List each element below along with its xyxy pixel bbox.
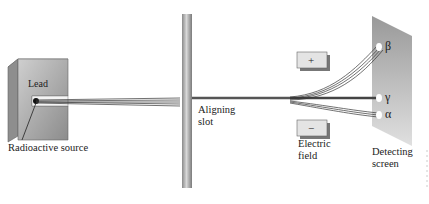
aligning-slot-pole — [182, 14, 192, 188]
alpha-spot — [376, 111, 382, 119]
field-label-line1: Electric — [298, 138, 331, 150]
minus-sign: − — [308, 122, 314, 134]
screen-label-line1: Detecting — [372, 146, 413, 158]
slot-label-line2: slot — [198, 116, 213, 128]
beta-spot — [376, 43, 382, 51]
lead-label: Lead — [28, 78, 48, 90]
field-label-line2: field — [298, 150, 317, 162]
detecting-screen — [372, 16, 412, 146]
gamma-spot — [376, 94, 382, 102]
diagram-canvas — [0, 0, 429, 204]
alpha-label: α — [385, 108, 391, 120]
slot-label-line1: Aligning — [198, 104, 235, 116]
beta-label: β — [385, 40, 391, 52]
plus-sign: + — [308, 54, 314, 66]
screen-label-line2: screen — [372, 158, 399, 170]
source-label: Radioactive source — [8, 142, 88, 154]
gamma-label: γ — [385, 91, 390, 103]
